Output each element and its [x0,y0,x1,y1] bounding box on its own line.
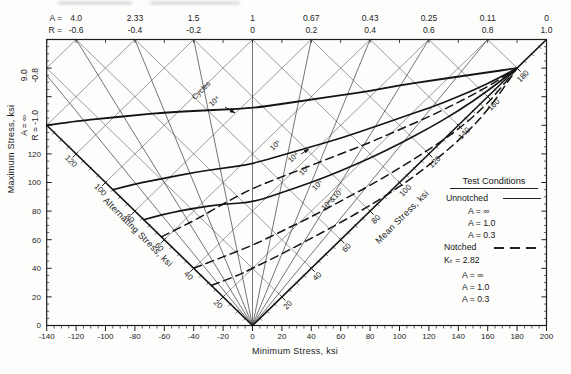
legend-notched-a-03: A = 0.3 [462,294,489,304]
x-tick-label: 60 [336,332,345,341]
y-tick-label: 100 [28,178,42,187]
legend-unnotched-a-1: A = 1.0 [468,218,495,228]
y-tick-label: 80 [32,207,41,216]
y-axis-title: Maximum Stress, ksi [6,74,16,224]
x-axis-tick-labels: -140-120-100-80-60-40-200204060801001201… [39,332,554,341]
mean-tick-label: 160 [486,97,502,113]
top-scale-R-value: -0.6 [69,25,84,35]
y-axis-tick-labels: 020406080100120 [28,150,42,331]
life-curve-2 [113,68,517,190]
legend-title: Test Conditions [450,176,538,189]
cycle-count-label: 10⁶ [297,163,311,177]
legend-notched-a-inf: A = ∞ [462,270,483,280]
top-scale-R-value: 0.4 [364,25,376,35]
fan-line-R--0.8 [47,75,253,325]
left-edge-R-value: -0.8 [30,68,40,83]
top-scale-A-value: 0 [544,13,549,23]
cycle-count-label: 10⁵ [268,138,282,152]
x-tick-label: 160 [481,332,495,341]
y-tick-label: 40 [32,264,41,273]
grid-constant-alternating-line [47,40,135,126]
legend-unnotched-a-inf: A = ∞ [468,206,489,216]
top-scale-A-value: 1 [250,13,255,23]
x-tick-label: -80 [129,332,141,341]
mean-tick-label: 100 [397,182,413,198]
x-tick-label: -20 [217,332,229,341]
life-curve-1 [47,68,517,125]
top-scale-A-value: 0.67 [303,13,320,23]
alternating-tick-label: 120 [63,153,79,169]
x-tick-label: -100 [97,332,114,341]
legend-kt-value: Kₜ = 2.82 [444,255,480,265]
top-scale-R-prefix: R = [49,25,63,35]
legend-unnotched-a-03: A = 0.3 [468,230,495,240]
x-tick-label: 100 [393,332,407,341]
top-scale-A-value: 2.33 [127,13,144,23]
grid-constant-mean-line [135,40,341,240]
grid-constant-alternating-line [47,40,76,69]
y-tick-label: 0 [37,321,42,330]
alternating-tick-label: 20 [212,298,225,311]
top-scale-R-value: -0.4 [128,25,143,35]
top-scale-A-value: 0.11 [480,13,496,23]
left-edge-A-value: A = ∞ [19,115,29,136]
y-tick-label: 60 [32,236,41,245]
top-scale-R-value: 0.6 [423,25,435,35]
top-scale-R-value: -0.2 [186,25,201,35]
top-scale-A-value: 1.5 [188,13,200,23]
mean-tick-label: 180 [515,68,531,84]
top-scale-R-value: 0 [250,25,255,35]
legend-dashed-line-swatch [494,247,540,249]
x-tick-label: 140 [452,332,466,341]
y-tick-label: 120 [28,150,42,159]
fan-line-R-0.6 [253,40,429,326]
left-edge-A-value: 9.0 [19,69,29,81]
legend-unnotched-label: Unnotched [446,193,488,203]
top-scale-A-value: 4.0 [70,13,82,23]
fan-line-R--0.4 [135,40,253,326]
top-scale-A-value: 0.43 [362,13,379,23]
top-scale-R-value: 0.2 [305,25,317,35]
grid-constant-mean-line [253,40,400,183]
constant-life-fatigue-diagram: -140-120-100-80-60-40-200204060801001201… [0,0,571,374]
mean-tick-label: 60 [340,241,353,254]
grid-constant-alternating-line [164,40,370,240]
top-scale-A-prefix: A = [49,13,62,23]
top-scale-R-value: 1.0 [541,25,553,35]
x-tick-label: 40 [307,332,316,341]
left-edge-R-value: R = -1.0 [30,110,40,141]
fan-line-R-0.2 [253,40,312,326]
fan-line-R--0.6 [76,40,252,326]
legend-notched-a-1: A = 1.0 [462,282,489,292]
cycle-count-label: 10⁴ [207,94,222,109]
mean-tick-label: 40 [311,270,324,283]
x-tick-label: 20 [277,332,286,341]
grid-constant-mean-line [488,40,517,69]
y-tick-label: 20 [32,293,41,302]
mean-tick-label: 80 [370,213,383,226]
mean-tick-label: 20 [281,298,294,311]
legend-solid-line-swatch [503,198,541,199]
legend-notched-label: Notched [444,242,476,252]
x-tick-label: 80 [366,332,375,341]
x-tick-label: -120 [68,332,85,341]
x-tick-label: 0 [250,332,255,341]
cycle-count-label: Cycles [190,79,212,101]
top-scale-R-value: 0.8 [482,25,494,35]
x-tick-label: -140 [39,332,56,341]
x-tick-label: 180 [510,332,524,341]
x-tick-label: 120 [422,332,436,341]
top-scale-A-value: 0.25 [421,13,438,23]
x-tick-label: 200 [540,332,554,341]
x-axis-title: Minimum Stress, ksi [195,346,395,356]
x-tick-label: -40 [188,332,200,341]
x-tick-label: -60 [159,332,171,341]
